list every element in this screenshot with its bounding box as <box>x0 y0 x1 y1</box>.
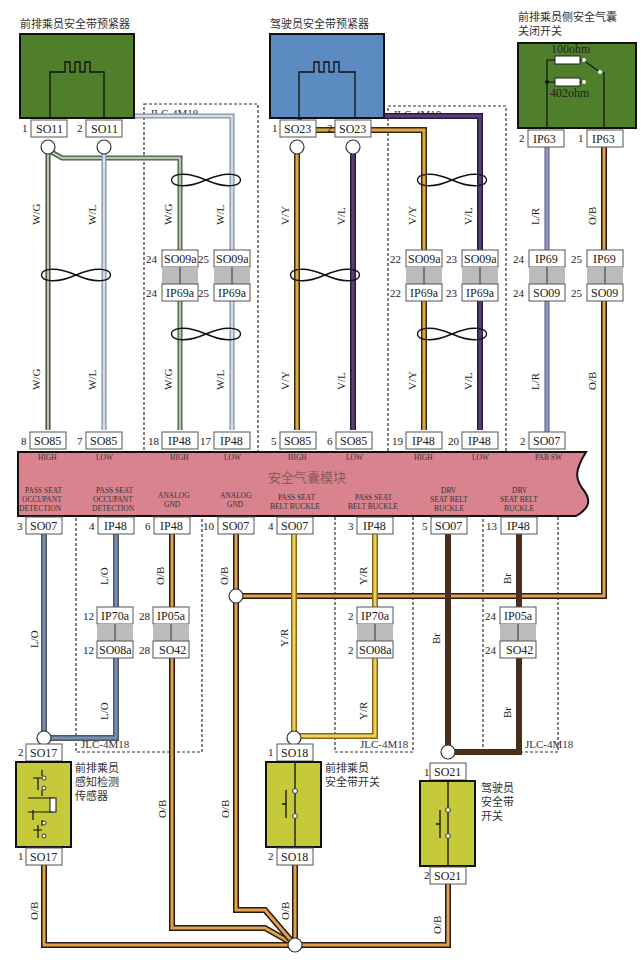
svg-text:SO85: SO85 <box>90 434 117 448</box>
svg-text:W/L: W/L <box>86 205 98 225</box>
inline-connector: 24 SO09a 24 IP69a <box>146 250 198 301</box>
svg-text:前排乘员安全带预紧器: 前排乘员安全带预紧器 <box>20 17 130 31</box>
svg-text:4: 4 <box>89 520 95 532</box>
occupant-sensor: 2 SO17 1 SO17 前排乘员 感知检测 传感器 <box>16 744 119 865</box>
svg-text:BUCKLE: BUCKLE <box>504 504 534 513</box>
svg-text:IP48: IP48 <box>220 434 243 448</box>
svg-text:DETECTION: DETECTION <box>19 504 62 513</box>
svg-text:25: 25 <box>571 287 583 299</box>
svg-text:24: 24 <box>146 253 158 265</box>
svg-text:22: 22 <box>390 253 401 265</box>
svg-text:12: 12 <box>83 644 94 656</box>
svg-text:SO09a: SO09a <box>164 252 197 266</box>
svg-text:DRV: DRV <box>441 486 457 495</box>
svg-text:O/B: O/B <box>28 902 40 920</box>
svg-text:2: 2 <box>424 869 430 881</box>
svg-text:1: 1 <box>18 850 24 862</box>
svg-text:25: 25 <box>198 287 210 299</box>
inline-connectors-upper: 24 SO09a 24 IP69a 25 SO09a 25 IP69a 22 S… <box>146 250 623 301</box>
svg-text:V/L: V/L <box>335 207 347 225</box>
svg-text:O/B: O/B <box>586 207 598 225</box>
svg-text:SO11: SO11 <box>36 122 63 136</box>
svg-text:6: 6 <box>327 435 333 447</box>
svg-text:IP48: IP48 <box>168 434 191 448</box>
svg-text:2: 2 <box>519 132 525 144</box>
svg-text:LOW: LOW <box>346 453 364 462</box>
svg-text:2: 2 <box>77 122 83 134</box>
svg-text:IP63: IP63 <box>533 132 556 146</box>
svg-text:SO07: SO07 <box>30 519 57 533</box>
svg-text:W/G: W/G <box>30 204 42 225</box>
svg-text:25: 25 <box>198 253 210 265</box>
svg-text:SO21: SO21 <box>434 765 461 779</box>
svg-text:SO08a: SO08a <box>99 643 132 657</box>
svg-text:SO23: SO23 <box>339 122 366 136</box>
harness-label: JLC-4M18 <box>525 738 574 750</box>
svg-text:SO09a: SO09a <box>216 252 249 266</box>
svg-text:IP69: IP69 <box>535 252 558 266</box>
svg-text:Br: Br <box>501 573 513 584</box>
svg-text:24: 24 <box>146 287 158 299</box>
svg-text:PASS SEAT: PASS SEAT <box>25 486 62 495</box>
svg-text:28: 28 <box>139 644 151 656</box>
svg-text:18: 18 <box>148 435 160 447</box>
svg-text:2: 2 <box>18 746 24 758</box>
svg-text:IP48: IP48 <box>507 519 530 533</box>
svg-text:W/L: W/L <box>214 370 226 390</box>
svg-text:1: 1 <box>22 122 28 134</box>
svg-text:HIGH: HIGH <box>288 453 307 462</box>
svg-text:SO07: SO07 <box>222 519 249 533</box>
splice-icon <box>229 589 243 603</box>
inline-connector: 12 IP70a 12 SO08a <box>83 607 133 658</box>
svg-text:驾驶员: 驾驶员 <box>481 781 514 795</box>
airbag-wiring-diagram: JLC-4M18 JLC-4M18 JLC-4M18 JLC-4M18 JLC-… <box>0 0 641 963</box>
inline-connector: 23 SO09a 23 IP69a <box>446 250 498 301</box>
module-title: 安全气囊模块 <box>268 470 346 485</box>
svg-text:PASS SEAT: PASS SEAT <box>355 493 392 502</box>
svg-text:前排乘员: 前排乘员 <box>325 761 369 775</box>
svg-text:BUCKLE: BUCKLE <box>434 504 464 513</box>
svg-text:10: 10 <box>203 520 215 532</box>
splice-icon <box>287 731 301 745</box>
splice-icon <box>37 731 51 745</box>
splice-icon <box>290 140 304 154</box>
svg-text:V/L: V/L <box>462 207 474 225</box>
svg-text:前排乘员侧安全气囊: 前排乘员侧安全气囊 <box>518 10 617 24</box>
svg-text:2: 2 <box>348 610 354 622</box>
svg-text:O/B: O/B <box>279 902 291 920</box>
svg-text:SO09a: SO09a <box>464 252 497 266</box>
svg-text:5: 5 <box>422 520 428 532</box>
svg-text:IP48: IP48 <box>363 519 386 533</box>
svg-text:402ohm: 402ohm <box>550 86 590 100</box>
module-top-pins: 8SO85HIGH 7SO85LOW 18IP48HIGH 17IP48LOW … <box>21 432 565 462</box>
svg-text:W/L: W/L <box>214 205 226 225</box>
svg-text:SEAT BELT: SEAT BELT <box>500 495 538 504</box>
splice-icon <box>41 140 55 154</box>
svg-text:O/B: O/B <box>156 800 168 818</box>
svg-text:IP05a: IP05a <box>157 609 186 623</box>
svg-text:L/O: L/O <box>28 630 40 648</box>
svg-text:1: 1 <box>272 122 278 134</box>
svg-text:W/G: W/G <box>162 204 174 225</box>
svg-text:W/L: W/L <box>86 370 98 390</box>
svg-text:LOW: LOW <box>224 453 242 462</box>
svg-text:SO09: SO09 <box>591 286 618 300</box>
inline-connector: 2 IP70a 2 SO08a <box>348 607 393 658</box>
svg-text:IP69: IP69 <box>593 252 616 266</box>
svg-text:DRV: DRV <box>512 486 528 495</box>
svg-text:SO07: SO07 <box>281 519 308 533</box>
svg-text:O/B: O/B <box>154 567 166 585</box>
svg-text:24: 24 <box>513 287 525 299</box>
svg-text:19: 19 <box>392 435 404 447</box>
pass-buckle-switch: 1 SO18 2 SO18 前排乘员 安全带开关 <box>266 744 380 865</box>
svg-text:SO42: SO42 <box>159 643 186 657</box>
svg-text:安全带: 安全带 <box>481 795 514 809</box>
svg-text:IP70a: IP70a <box>361 609 390 623</box>
svg-text:1: 1 <box>268 746 274 758</box>
svg-text:Br: Br <box>501 707 513 718</box>
svg-text:IP63: IP63 <box>592 132 615 146</box>
svg-text:SO09: SO09 <box>533 286 560 300</box>
svg-text:1: 1 <box>578 132 584 144</box>
svg-text:2: 2 <box>327 122 333 134</box>
svg-text:24: 24 <box>485 644 497 656</box>
